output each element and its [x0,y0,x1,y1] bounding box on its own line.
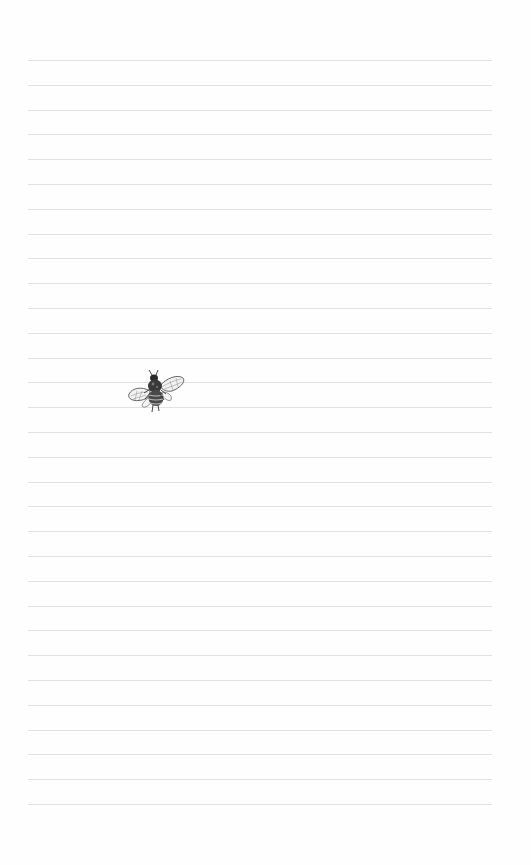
ruled-line [28,680,492,681]
ruled-line [28,432,492,433]
ruled-line [28,531,492,532]
ruled-line [28,482,492,483]
ruled-line [28,457,492,458]
ruled-line [28,358,492,359]
ruled-line [28,407,492,408]
ruled-line [28,258,492,259]
ruled-line [28,556,492,557]
ruled-line [28,234,492,235]
ruled-line [28,110,492,111]
ruled-line [28,159,492,160]
ruled-line [28,382,492,383]
ruled-line [28,60,492,61]
ruled-line [28,655,492,656]
ruled-line [28,754,492,755]
ruled-line [28,779,492,780]
ruled-line [28,209,492,210]
notebook-page [0,0,531,865]
ruled-line [28,333,492,334]
ruled-line [28,184,492,185]
ruled-line [28,730,492,731]
ruled-line [28,606,492,607]
ruled-line [28,308,492,309]
ruled-line [28,581,492,582]
ruled-line [28,283,492,284]
ruled-line [28,85,492,86]
ruled-line [28,134,492,135]
ruled-line [28,705,492,706]
ruled-line [28,630,492,631]
ruled-line [28,506,492,507]
bee-icon [126,369,186,415]
ruled-line [28,804,492,805]
